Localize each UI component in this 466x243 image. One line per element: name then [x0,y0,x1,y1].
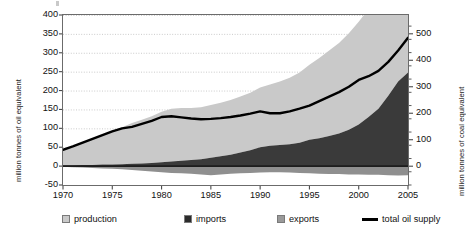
legend-line-icon [362,218,378,221]
right-tick-label: 0 [416,160,450,170]
left-tick-label: 0 [18,160,58,170]
right-tick-label: 400 [416,54,450,64]
legend-swatch-icon [277,215,285,223]
right-tick-label: 200 [416,107,450,117]
legend-label: production [74,214,117,224]
scan-artifact [56,1,59,6]
left-tick-label: -50 [18,179,58,189]
left-tick-label: 50 [18,141,58,151]
x-tick-label: 1975 [90,190,134,200]
legend-item-imports[interactable]: imports [184,214,226,224]
x-tick-label: 1970 [41,190,85,200]
right-tick-label: 300 [416,81,450,91]
right-tick-label: 500 [416,28,450,38]
left-tick-label: 350 [18,28,58,38]
plot-svg [63,15,408,185]
left-tick-label: 250 [18,66,58,76]
x-tick-label: 1995 [287,190,331,200]
right-tick-label: 100 [416,134,450,144]
x-tick-label: 1985 [189,190,233,200]
left-tick-label: 200 [18,85,58,95]
legend-swatch-icon [62,215,70,223]
legend-label: total oil supply [382,214,440,224]
area-exports [63,166,408,175]
right-axis-title: million tonnes of coal equivalent [457,87,466,196]
x-tick-label: 1980 [140,190,184,200]
x-tick-label: 2005 [386,190,430,200]
legend-label: exports [289,214,319,224]
x-tick-label: 2000 [337,190,381,200]
legend-label: imports [196,214,226,224]
legend-swatch-icon [184,215,192,223]
left-tick-label: 100 [18,122,58,132]
plot-area [62,14,409,186]
left-tick-label: 150 [18,103,58,113]
chart-legend: productionimportsexportstotal oil supply [62,214,412,232]
legend-item-total-oil-supply[interactable]: total oil supply [362,214,440,224]
left-tick-label: 400 [18,9,58,19]
left-tick-label: 300 [18,47,58,57]
x-tick-label: 1990 [238,190,282,200]
legend-item-production[interactable]: production [62,214,117,224]
legend-item-exports[interactable]: exports [277,214,319,224]
